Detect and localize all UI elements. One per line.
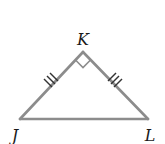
triangle-diagram: K J L	[0, 0, 165, 144]
vertex-label-j: J	[9, 126, 20, 144]
vertex-label-l: L	[144, 126, 156, 144]
vertex-label-k: K	[76, 30, 90, 49]
right-angle-marker	[76, 60, 91, 68]
